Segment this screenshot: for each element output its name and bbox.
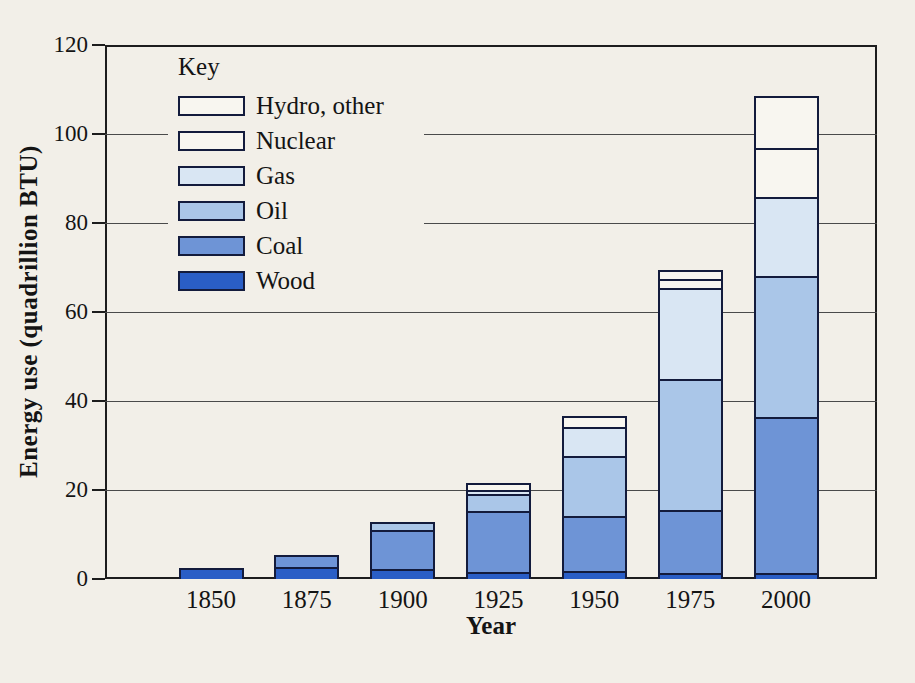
y-tick-80 <box>92 222 105 224</box>
y-tick-20 <box>92 489 105 491</box>
bar-segment-coal-1875 <box>274 555 339 567</box>
x-tick-label-1850: 1850 <box>166 587 256 612</box>
legend-label-oil: Oil <box>256 198 288 224</box>
legend-label-nuclear: Nuclear <box>256 128 335 154</box>
y-tick-label-60: 60 <box>28 300 88 323</box>
legend-row-hydro-other: Hydro, other <box>178 96 384 116</box>
bar-segment-nuclear-2000 <box>754 148 819 197</box>
x-tick-label-1900: 1900 <box>358 587 448 612</box>
legend-label-hydro-other: Hydro, other <box>256 93 384 119</box>
bar-segment-gas-2000 <box>754 197 819 275</box>
bar-segment-hydro-other-2000 <box>754 96 819 148</box>
y-tick-label-40: 40 <box>28 389 88 412</box>
legend-row-wood: Wood <box>178 271 315 291</box>
bar-segment-coal-1925 <box>466 511 531 572</box>
legend-label-gas: Gas <box>256 163 295 189</box>
y-tick-label-100: 100 <box>28 122 88 145</box>
bar-segment-wood-1850 <box>179 568 244 579</box>
bar-segment-wood-1900 <box>370 569 435 579</box>
legend: Key Hydro, otherNuclearGasOilCoalWood <box>168 52 424 300</box>
bar-segment-nuclear-1975 <box>658 279 723 288</box>
x-tick-label-1975: 1975 <box>645 587 735 612</box>
bar-segment-oil-1900 <box>370 522 435 530</box>
legend-row-coal: Coal <box>178 236 303 256</box>
x-tick-label-1950: 1950 <box>549 587 639 612</box>
bar-segment-wood-1975 <box>658 573 723 579</box>
y-tick-0 <box>92 578 105 580</box>
legend-swatch-gas <box>178 166 245 186</box>
bar-segment-coal-1950 <box>562 516 627 571</box>
bar-segment-gas-1925 <box>466 490 531 494</box>
legend-swatch-wood <box>178 271 245 291</box>
legend-row-gas: Gas <box>178 166 295 186</box>
x-tick-label-2000: 2000 <box>741 587 831 612</box>
y-tick-120 <box>92 44 105 46</box>
bar-segment-hydro-other-1950 <box>562 416 627 428</box>
y-tick-100 <box>92 133 105 135</box>
y-tick-40 <box>92 400 105 402</box>
bar-segment-hydro-other-1975 <box>658 270 723 279</box>
legend-swatch-nuclear <box>178 131 245 151</box>
legend-row-oil: Oil <box>178 201 288 221</box>
y-tick-label-20: 20 <box>28 478 88 501</box>
bar-segment-gas-1950 <box>562 427 627 456</box>
y-tick-label-80: 80 <box>28 211 88 234</box>
legend-title: Key <box>178 54 220 80</box>
energy-chart-figure: Energy use (quadrillion BTU) 02040608010… <box>0 0 915 683</box>
bar-segment-oil-1975 <box>658 379 723 511</box>
bar-segment-wood-2000 <box>754 573 819 579</box>
legend-swatch-hydro-other <box>178 96 245 116</box>
legend-label-coal: Coal <box>256 233 303 259</box>
bar-segment-coal-1975 <box>658 510 723 572</box>
bar-segment-wood-1875 <box>274 567 339 579</box>
bar-segment-wood-1925 <box>466 572 531 579</box>
x-axis-title: Year <box>391 612 591 640</box>
legend-swatch-coal <box>178 236 245 256</box>
bar-segment-gas-1975 <box>658 288 723 379</box>
y-tick-label-0: 0 <box>28 567 88 590</box>
legend-label-wood: Wood <box>256 268 315 294</box>
x-tick-label-1875: 1875 <box>262 587 352 612</box>
bar-segment-oil-2000 <box>754 276 819 417</box>
y-tick-label-120: 120 <box>28 33 88 56</box>
y-tick-60 <box>92 311 105 313</box>
x-tick-label-1925: 1925 <box>454 587 544 612</box>
legend-swatch-oil <box>178 201 245 221</box>
bar-segment-oil-1950 <box>562 456 627 516</box>
bar-segment-coal-2000 <box>754 417 819 573</box>
bar-segment-wood-1950 <box>562 571 627 579</box>
bar-segment-coal-1900 <box>370 530 435 569</box>
bar-segment-oil-1925 <box>466 494 531 511</box>
bar-segment-hydro-other-1925 <box>466 483 531 490</box>
legend-row-nuclear: Nuclear <box>178 131 335 151</box>
